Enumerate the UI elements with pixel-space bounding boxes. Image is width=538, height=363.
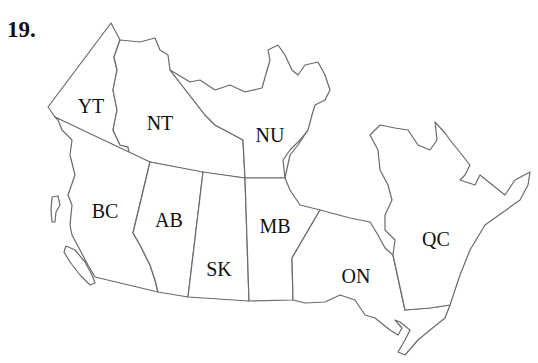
label-bc: BC bbox=[92, 200, 119, 223]
label-mb: MB bbox=[259, 215, 290, 238]
label-nt: NT bbox=[147, 112, 174, 135]
label-ab: AB bbox=[155, 209, 183, 232]
label-yt: YT bbox=[78, 95, 105, 118]
label-nu: NU bbox=[256, 124, 285, 147]
label-sk: SK bbox=[206, 258, 232, 281]
label-qc: QC bbox=[422, 228, 450, 251]
canada-map bbox=[0, 0, 538, 363]
label-on: ON bbox=[342, 265, 371, 288]
region-haida-gwaii bbox=[51, 196, 60, 222]
